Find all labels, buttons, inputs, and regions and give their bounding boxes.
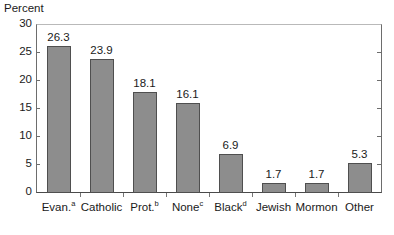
bar[interactable] xyxy=(305,183,329,193)
bar-value-label: 1.7 xyxy=(309,168,325,180)
bar-slot: 18.1 xyxy=(123,25,166,193)
x-axis-tick-mark xyxy=(80,193,81,197)
y-axis-tick-mark xyxy=(36,52,40,53)
y-axis-tick-label: 25 xyxy=(4,46,32,58)
bar[interactable] xyxy=(262,183,286,193)
y-axis-tick-mark xyxy=(36,80,40,81)
y-axis-tick-mark-right xyxy=(377,164,381,165)
x-axis-tick-mark xyxy=(338,193,339,197)
bar-slot: 1.7 xyxy=(295,25,338,193)
y-axis-tick-label: 0 xyxy=(4,186,32,198)
y-axis-tick-mark-right xyxy=(377,108,381,109)
y-axis-tick-mark xyxy=(36,108,40,109)
bar-chart: Percent 051015202530 26.323.918.116.16.9… xyxy=(0,0,394,235)
y-axis-tick-label: 30 xyxy=(4,18,32,30)
y-axis-tick-label: 5 xyxy=(4,158,32,170)
x-axis-tick-label: Other xyxy=(331,200,389,214)
bar[interactable] xyxy=(90,59,114,193)
y-axis-tick-label: 20 xyxy=(4,74,32,86)
bar-slot: 23.9 xyxy=(80,25,123,193)
bar[interactable] xyxy=(348,163,372,193)
bar-slot: 1.7 xyxy=(252,25,295,193)
y-axis-tick-mark-right xyxy=(377,52,381,53)
bar-value-label: 16.1 xyxy=(176,88,198,100)
y-axis-tick-mark xyxy=(36,164,40,165)
bar-value-label: 23.9 xyxy=(90,44,112,56)
bar-value-label: 26.3 xyxy=(47,31,69,43)
x-axis-tick-mark xyxy=(209,193,210,197)
y-axis-tick-labels: 051015202530 xyxy=(0,24,32,193)
x-axis-tick-labels: Evan.aCatholicProt.bNonecBlackdJewishMor… xyxy=(37,200,381,220)
bar[interactable] xyxy=(133,92,157,193)
y-axis-tick-mark-right xyxy=(377,136,381,137)
bar-slot: 26.3 xyxy=(37,25,80,193)
bar-value-label: 5.3 xyxy=(352,148,368,160)
y-axis-tick-label: 15 xyxy=(4,102,32,114)
x-axis-tick-mark xyxy=(252,193,253,197)
bar-value-label: 1.7 xyxy=(266,168,282,180)
y-axis-tick-mark xyxy=(36,136,40,137)
bar-slot: 6.9 xyxy=(209,25,252,193)
bar-slot: 5.3 xyxy=(338,25,381,193)
bar[interactable] xyxy=(47,46,71,193)
bar-value-label: 6.9 xyxy=(223,139,239,151)
y-axis-tick-mark-right xyxy=(377,80,381,81)
bars-layer: 26.323.918.116.16.91.71.75.3 xyxy=(37,25,381,193)
bar[interactable] xyxy=(219,154,243,193)
y-axis-title: Percent xyxy=(4,2,44,15)
bar-value-label: 18.1 xyxy=(133,77,155,89)
bar-slot: 16.1 xyxy=(166,25,209,193)
x-axis-tick-mark xyxy=(166,193,167,197)
y-axis-tick-label: 10 xyxy=(4,130,32,142)
x-axis-tick-mark xyxy=(123,193,124,197)
x-axis-tick-mark xyxy=(295,193,296,197)
bar[interactable] xyxy=(176,103,200,193)
